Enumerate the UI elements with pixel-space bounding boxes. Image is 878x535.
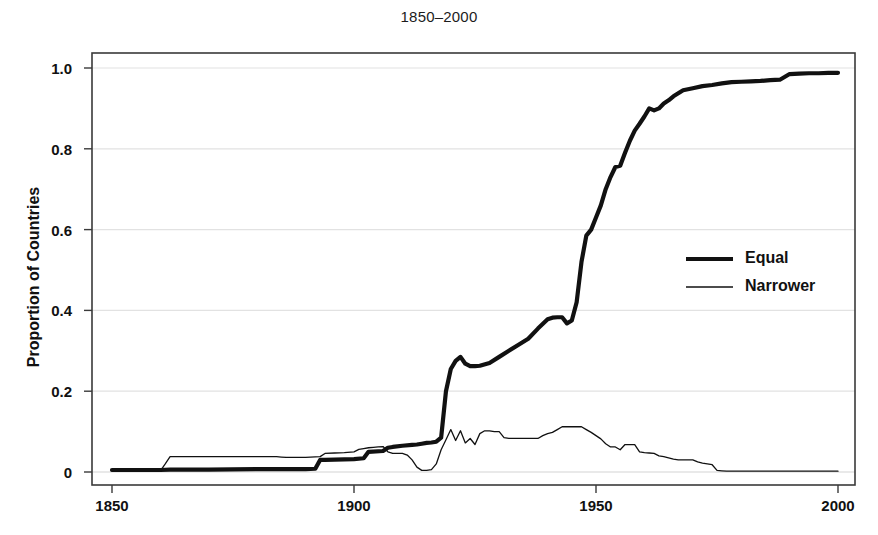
data-series (112, 73, 838, 471)
series-line-equal (112, 73, 838, 470)
axis-ticks (84, 68, 838, 493)
series-line-narrower (112, 427, 838, 471)
gridlines (92, 68, 855, 472)
chart-plot-area (0, 0, 878, 535)
plot-frame (92, 53, 855, 485)
legend-swatches (686, 259, 733, 287)
axes-box (92, 53, 855, 485)
chart-figure: 1850–2000 Proportion of Countries 0 0.2 … (0, 0, 878, 535)
